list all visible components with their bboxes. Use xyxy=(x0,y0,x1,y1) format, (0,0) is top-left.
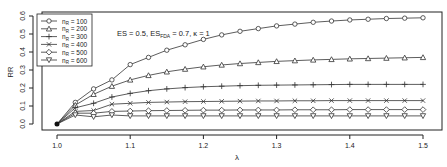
x-tick-label: 1.4 xyxy=(345,142,355,149)
x-tick-label: 1.1 xyxy=(125,142,135,149)
x-tick-label: 1.5 xyxy=(418,142,428,149)
legend: nR = 100nR = 200nR = 300nR = 400nR = 500… xyxy=(37,14,92,66)
origin-point xyxy=(55,122,60,127)
y-tick-label: 0.2 xyxy=(19,83,26,93)
y-axis-label: RR xyxy=(6,66,15,77)
y-tick-label: 0.5 xyxy=(19,29,26,39)
x-tick-label: 1.0 xyxy=(52,142,62,149)
series-nabla xyxy=(57,113,426,124)
x-axis-label: λ xyxy=(235,153,239,162)
y-tick-label: 0.1 xyxy=(19,101,26,111)
y-tick-label: 0.3 xyxy=(19,65,26,75)
parameter-annotation: ES = 0.5, ESFDA = 0.7, κ = 1 xyxy=(117,29,210,39)
x-tick-label: 1.2 xyxy=(199,142,209,149)
x-tick-label: 1.3 xyxy=(272,142,282,149)
rr-vs-lambda-chart: 1.01.11.21.31.41.50.00.10.20.30.40.50.6 … xyxy=(0,0,447,167)
y-tick-label: 0.6 xyxy=(19,11,26,21)
y-tick-label: 0.0 xyxy=(19,119,26,129)
y-tick-label: 0.4 xyxy=(19,47,26,57)
curves xyxy=(55,16,426,127)
